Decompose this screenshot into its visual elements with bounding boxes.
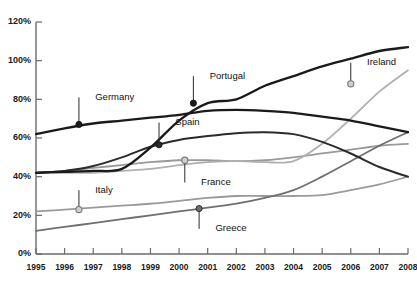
annotation-ireland: Ireland [348, 56, 396, 87]
annotation-label: Ireland [367, 56, 396, 67]
chart-plot-area: 0%20%40%60%80%100%120%199519961997199819… [0, 0, 417, 288]
line-chart-figure: 0%20%40%60%80%100%120%199519961997199819… [0, 0, 417, 288]
annotation-marker-filled [76, 121, 82, 127]
y-axis-tick-label: 60% [13, 132, 31, 142]
annotation-label: Portugal [210, 70, 245, 81]
x-axis-tick-label: 2002 [227, 262, 246, 272]
annotation-label: France [201, 176, 231, 187]
annotation-label: Spain [175, 116, 199, 127]
annotation-marker-filled [196, 205, 202, 211]
annotation-marker-filled [190, 100, 196, 106]
series-line-france [36, 144, 408, 173]
y-axis-tick-label: 40% [13, 171, 31, 181]
x-axis-tick-label: 2000 [170, 262, 189, 272]
annotation-label: Germany [95, 91, 134, 102]
annotation-label: Italy [95, 184, 113, 195]
x-axis-tick-label: 2007 [370, 262, 389, 272]
x-axis-tick-label: 1997 [84, 262, 103, 272]
annotation-greece: Greece [196, 205, 247, 233]
x-axis-tick-label: 2004 [284, 262, 303, 272]
x-axis-tick-label: 1998 [112, 262, 131, 272]
series-line-germany [36, 110, 408, 134]
x-axis-tick-label: 2006 [341, 262, 360, 272]
y-axis-tick-label: 0% [18, 248, 31, 258]
y-axis-tick-label: 120% [8, 16, 31, 26]
x-axis-tick-label: 2005 [313, 262, 332, 272]
x-axis-tick-label: 2003 [255, 262, 274, 272]
x-axis-tick-label: 1995 [27, 262, 46, 272]
x-axis-tick-label: 1999 [141, 262, 160, 272]
x-axis-tick-label: 1996 [55, 262, 74, 272]
annotation-label: Greece [215, 222, 246, 233]
annotation-marker-filled [156, 142, 162, 148]
y-axis-tick-label: 80% [13, 94, 31, 104]
y-axis-tick-label: 20% [13, 210, 31, 220]
x-axis-tick-label: 2001 [198, 262, 217, 272]
y-axis-tick-label: 100% [8, 55, 31, 65]
annotation-marker-open [348, 81, 354, 87]
x-axis-tick-label: 2008 [399, 262, 417, 272]
annotation-marker-open [182, 157, 188, 163]
annotation-marker-open [76, 206, 82, 212]
